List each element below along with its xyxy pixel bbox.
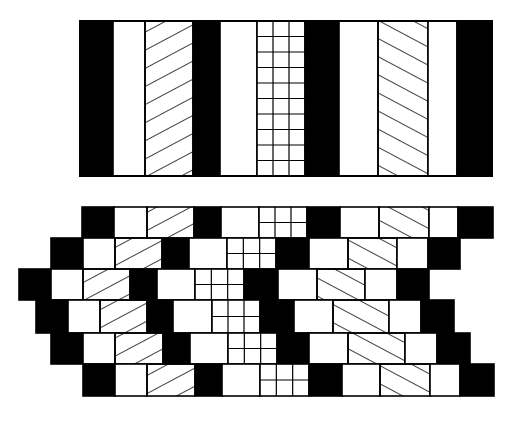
white-stripe <box>429 207 458 238</box>
white-stripe <box>113 21 145 176</box>
black-stripe <box>162 238 189 269</box>
black-stripe <box>244 269 278 300</box>
black-stripe <box>260 300 294 333</box>
black-stripe <box>458 207 493 238</box>
white-stripe <box>115 364 147 396</box>
forward-hatch-stripe <box>115 238 162 269</box>
white-stripe <box>340 207 379 238</box>
white-stripe <box>220 21 257 176</box>
back-hatch-stripe <box>380 364 430 396</box>
staggered-sheared-band <box>19 207 494 396</box>
black-stripe <box>130 269 157 300</box>
black-stripe <box>305 21 339 176</box>
black-stripe <box>19 269 51 300</box>
staggered-row-3 <box>19 269 429 300</box>
black-stripe <box>307 207 340 238</box>
black-stripe <box>309 364 342 396</box>
black-stripe <box>428 238 460 269</box>
black-stripe <box>51 333 83 364</box>
striped-pattern-diagram <box>0 0 528 421</box>
white-stripe <box>309 238 348 269</box>
back-hatch-stripe <box>348 333 405 364</box>
staggered-row-1 <box>82 207 493 238</box>
black-stripe <box>194 207 221 238</box>
white-stripe <box>222 364 260 396</box>
back-hatch-stripe <box>379 207 429 238</box>
black-stripe <box>36 300 68 333</box>
forward-hatch-stripe <box>100 300 147 333</box>
white-stripe <box>405 333 437 364</box>
black-stripe <box>147 300 173 333</box>
forward-hatch-stripe <box>145 21 193 176</box>
forward-hatch-stripe <box>115 333 163 364</box>
white-stripe <box>114 207 147 238</box>
black-stripe <box>277 333 309 364</box>
black-stripe <box>276 238 309 269</box>
white-stripe <box>397 238 428 269</box>
black-stripe <box>421 300 454 333</box>
black-stripe <box>80 21 113 176</box>
black-stripe <box>82 207 114 238</box>
white-stripe <box>278 269 317 300</box>
black-stripe <box>83 364 115 396</box>
white-stripe <box>365 269 397 300</box>
white-stripe <box>309 333 348 364</box>
back-hatch-stripe <box>317 269 365 300</box>
black-stripe <box>195 364 222 396</box>
forward-hatch-stripe <box>147 364 195 396</box>
white-stripe <box>68 300 100 333</box>
forward-hatch-stripe <box>83 269 130 300</box>
white-stripe <box>189 238 227 269</box>
white-stripe <box>428 21 457 176</box>
white-stripe <box>389 300 421 333</box>
black-stripe <box>437 333 470 364</box>
white-stripe <box>83 333 115 364</box>
white-stripe <box>83 238 115 269</box>
staggered-row-4 <box>36 300 454 333</box>
white-stripe <box>430 364 460 396</box>
back-hatch-stripe <box>348 238 397 269</box>
white-stripe <box>157 269 195 300</box>
staggered-row-6 <box>83 364 494 396</box>
white-stripe <box>342 364 380 396</box>
black-stripe <box>397 269 429 300</box>
back-hatch-stripe <box>333 300 389 333</box>
black-stripe <box>460 364 494 396</box>
black-stripe <box>51 238 83 269</box>
black-stripe <box>457 21 492 176</box>
staggered-row-5 <box>51 333 470 364</box>
top-striped-band <box>80 21 492 176</box>
white-stripe <box>190 333 228 364</box>
staggered-row-2 <box>51 238 460 269</box>
white-stripe <box>294 300 333 333</box>
white-stripe <box>173 300 212 333</box>
back-hatch-stripe <box>378 21 428 176</box>
black-stripe <box>193 21 220 176</box>
forward-hatch-stripe <box>147 207 194 238</box>
black-stripe <box>163 333 190 364</box>
white-stripe <box>339 21 378 176</box>
white-stripe <box>51 269 83 300</box>
white-stripe <box>221 207 259 238</box>
